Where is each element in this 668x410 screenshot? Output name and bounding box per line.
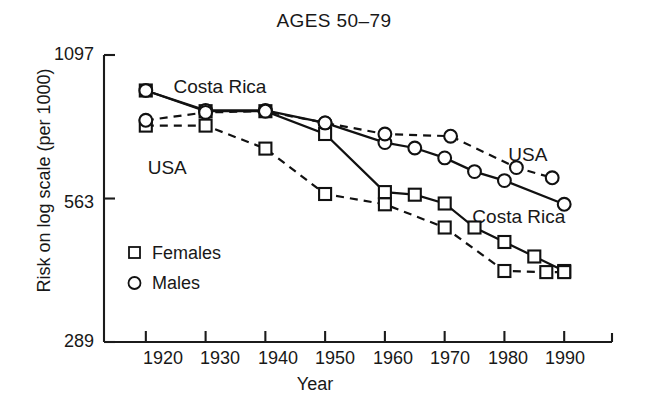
data-point-costa-rica-females-1975 xyxy=(469,222,481,234)
data-point-usa-females-1990 xyxy=(558,266,570,278)
data-point-costa-rica-males-1965 xyxy=(408,142,421,155)
plot-canvas xyxy=(0,0,668,410)
data-point-usa-males-1988 xyxy=(546,171,559,184)
legend-marker-circle xyxy=(129,277,141,289)
data-point-usa-males-1920 xyxy=(139,114,152,127)
data-point-usa-females-1930 xyxy=(200,120,212,132)
data-point-usa-males-1982 xyxy=(510,161,523,174)
data-point-usa-males-1960 xyxy=(379,128,392,141)
data-point-costa-rica-females-1970 xyxy=(439,198,451,210)
chart-figure: AGES 50–79 Risk on log scale (per 1000) … xyxy=(0,0,668,410)
legend-marker-square xyxy=(129,247,140,258)
data-point-usa-males-1940 xyxy=(259,105,272,118)
data-point-usa-females-1980 xyxy=(498,265,510,277)
data-point-costa-rica-females-1980 xyxy=(498,236,510,248)
data-point-costa-rica-females-1965 xyxy=(409,189,421,201)
data-point-usa-males-1930 xyxy=(199,106,212,119)
data-point-usa-females-1987 xyxy=(540,266,552,278)
axes xyxy=(104,55,612,342)
legend-markers xyxy=(129,247,141,289)
data-point-costa-rica-females-1960 xyxy=(379,186,391,198)
series-line-usa-females xyxy=(146,126,564,273)
data-point-costa-rica-males-1920 xyxy=(139,84,152,97)
data-point-costa-rica-males-1970 xyxy=(438,152,451,165)
data-point-costa-rica-males-1980 xyxy=(498,174,511,187)
data-point-costa-rica-males-1990 xyxy=(558,198,571,211)
data-point-usa-females-1940 xyxy=(259,143,271,155)
data-series xyxy=(139,84,570,278)
data-point-costa-rica-males-1975 xyxy=(468,165,481,178)
data-point-usa-females-1960 xyxy=(379,198,391,210)
data-point-usa-females-1950 xyxy=(319,188,331,200)
data-point-costa-rica-females-1985 xyxy=(528,251,540,263)
data-point-usa-females-1970 xyxy=(439,222,451,234)
data-point-usa-males-1950 xyxy=(319,117,332,130)
data-point-usa-males-1971 xyxy=(444,130,457,143)
